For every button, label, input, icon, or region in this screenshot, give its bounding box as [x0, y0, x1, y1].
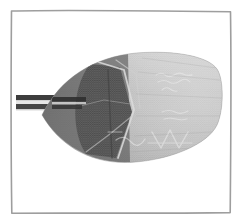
insertion-bar-lower [52, 105, 82, 109]
photo-plate: elongated leaf-shaped woven artifact [0, 0, 242, 224]
stem-insertion [52, 97, 86, 109]
insertion-bar-upper [52, 97, 86, 102]
artifact-image [12, 12, 230, 212]
insertion-highlight [52, 102, 86, 104]
blade-body [12, 12, 230, 212]
